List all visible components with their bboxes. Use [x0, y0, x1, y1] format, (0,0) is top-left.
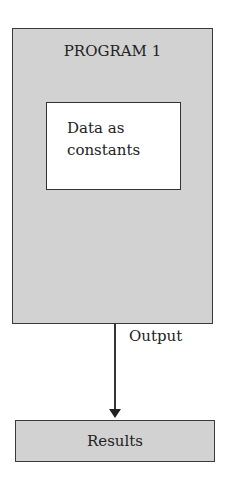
data-constants-label: Data as constants	[67, 117, 140, 161]
arrow-down-icon	[109, 409, 121, 418]
results-box: Results	[15, 420, 215, 462]
results-label: Results	[16, 432, 214, 450]
program-box: PROGRAM 1 Data as constants	[12, 28, 213, 324]
program-title: PROGRAM 1	[13, 42, 212, 60]
output-arrow-line	[114, 323, 116, 412]
output-label: Output	[129, 327, 182, 345]
data-constants-box: Data as constants	[46, 102, 181, 190]
